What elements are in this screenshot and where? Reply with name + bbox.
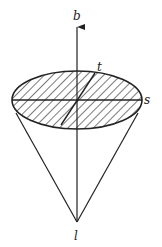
label-b: b bbox=[73, 9, 81, 23]
label-s: s bbox=[144, 93, 150, 107]
label-t: t bbox=[97, 60, 102, 74]
label-l: l bbox=[74, 229, 78, 243]
cone-diagram: b t s l bbox=[0, 0, 162, 247]
